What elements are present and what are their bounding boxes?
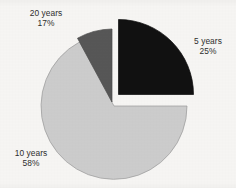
pie-slice-5-years[interactable] <box>119 20 194 95</box>
pie-label-20-years: 20 years 17% <box>17 8 75 28</box>
pie-label-10-years-percent: 58% <box>2 158 60 168</box>
pie-label-5-years: 5 years 25% <box>182 36 234 56</box>
pie-label-5-years-percent: 25% <box>182 46 234 56</box>
pie-label-20-years-name: 20 years <box>17 8 75 18</box>
pie-label-10-years-name: 10 years <box>2 148 60 158</box>
pie-label-20-years-percent: 17% <box>17 18 75 28</box>
pie-chart: 20 years 17% 5 years 25% 10 years 58% <box>0 0 236 188</box>
pie-label-5-years-name: 5 years <box>182 36 234 46</box>
pie-label-10-years: 10 years 58% <box>2 148 60 168</box>
